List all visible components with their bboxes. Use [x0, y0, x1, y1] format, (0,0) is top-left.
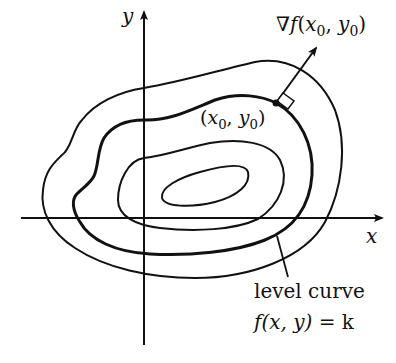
point-close-paren: ) [258, 106, 265, 128]
point-y-sub: 0 [249, 117, 257, 132]
y-axis-label: y [122, 6, 133, 26]
gradient-close-paren: ) [358, 12, 366, 36]
point-comma: , [227, 106, 239, 128]
y-axis-label-text: y [122, 4, 133, 28]
x-axis-label: x [366, 226, 377, 246]
level-curve-caption: level curve [254, 281, 365, 301]
gradient-label: ∇f(x0, y0) [276, 14, 366, 38]
point-x0-y0 [273, 100, 280, 107]
x-axis-label-text: x [366, 224, 377, 248]
equation-equals-k: = k [312, 310, 354, 334]
gradient-y: y [338, 12, 349, 36]
diagram-canvas: y x ∇f(x0, y0) (x0, y0) level curve f(x,… [0, 0, 396, 363]
gradient-comma: , [325, 12, 338, 36]
point-x-sub: 0 [218, 117, 226, 132]
point-x: x [207, 106, 218, 128]
point-label: (x0, y0) [200, 108, 265, 131]
inner-contour [118, 141, 284, 230]
equation-args: (x, y) [261, 310, 312, 334]
level-curve-equation: f(x, y) = k [254, 312, 354, 332]
point-y: y [239, 106, 250, 128]
gradient-y-sub: 0 [349, 23, 358, 39]
innermost-contour [162, 166, 249, 206]
outer-contour [42, 61, 342, 278]
contour-plot [0, 0, 396, 363]
gradient-x: x [305, 12, 316, 36]
level-curve-caption-text: level curve [254, 279, 365, 303]
nabla-symbol: ∇ [276, 12, 290, 36]
